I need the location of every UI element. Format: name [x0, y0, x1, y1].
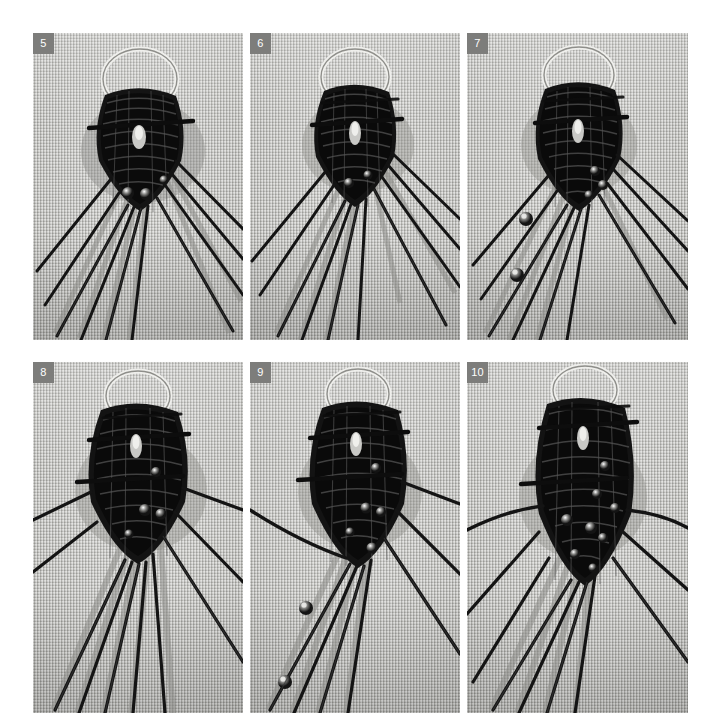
- photo-panel-10[interactable]: 10: [467, 362, 688, 713]
- step-badge-7: 7: [467, 33, 488, 54]
- knotwork-illustration: [467, 33, 688, 340]
- knotwork-illustration: [250, 362, 460, 713]
- step-badge-6: 6: [250, 33, 271, 54]
- photo-grid: 5: [33, 33, 688, 713]
- step-badge-5: 5: [33, 33, 54, 54]
- step-badge-10: 10: [467, 362, 488, 383]
- photo-panel-9[interactable]: 9: [250, 362, 460, 713]
- photo-grid-page: 5: [0, 0, 713, 719]
- knotwork-illustration: [33, 362, 243, 713]
- knotwork-illustration: [250, 33, 460, 340]
- photo-panel-7[interactable]: 7: [467, 33, 688, 340]
- knotwork-illustration: [33, 33, 243, 340]
- photo-panel-6[interactable]: 6: [250, 33, 460, 340]
- photo-panel-8[interactable]: 8: [33, 362, 243, 713]
- step-badge-9: 9: [250, 362, 271, 383]
- photo-panel-5[interactable]: 5: [33, 33, 243, 340]
- knotwork-illustration: [467, 362, 688, 713]
- step-badge-8: 8: [33, 362, 54, 383]
